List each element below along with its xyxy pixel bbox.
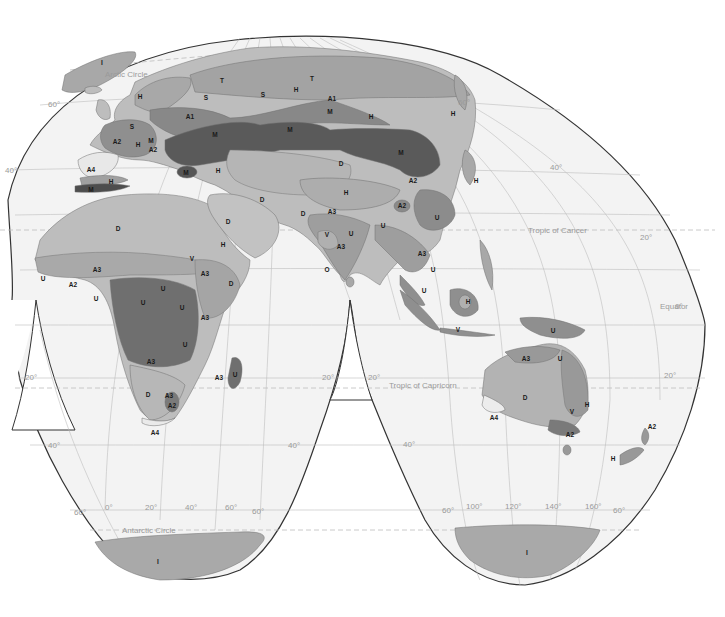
region-label: U <box>94 295 99 302</box>
sri-lanka <box>346 277 354 287</box>
lat-label: 40° <box>5 166 17 175</box>
region-label: H <box>221 241 226 248</box>
region-label: D <box>301 210 306 217</box>
lat-label: 60° <box>458 98 470 107</box>
region-label: D <box>260 196 265 203</box>
region-label: U <box>435 214 440 221</box>
region-label: H <box>294 86 299 93</box>
arctic-circle-label: Arctic Circle <box>105 70 148 79</box>
region-label: U <box>381 222 386 229</box>
region-label: M <box>212 131 217 138</box>
lon-label: 100° <box>466 502 483 511</box>
region-label: A3 <box>201 314 210 321</box>
region-label: M <box>148 137 153 144</box>
region-label: T <box>310 75 314 82</box>
region-label: A1 <box>186 113 195 120</box>
region-label: H <box>451 110 456 117</box>
region-label: U <box>180 304 185 311</box>
region-label: H <box>369 113 374 120</box>
region-label: A2 <box>69 281 78 288</box>
lon-label: 40° <box>185 503 197 512</box>
region-label: A3 <box>201 270 210 277</box>
region-label: A3 <box>328 208 337 215</box>
tasmania <box>563 445 571 455</box>
region-label: V <box>456 326 461 333</box>
world-map: Arctic Circle Tropic of Cancer Equator T… <box>0 0 725 617</box>
region-label: U <box>422 287 427 294</box>
region-label: I <box>526 549 528 556</box>
region-label: H <box>466 298 471 305</box>
antarctica-left <box>95 532 264 580</box>
region-label: A3 <box>215 374 224 381</box>
region-label: A2 <box>566 431 575 438</box>
region-label: A2 <box>648 423 657 430</box>
region-label: H <box>138 93 143 100</box>
lat-label: 60° <box>48 100 60 109</box>
lat-label: 0° <box>675 302 683 311</box>
lat-label: 60° <box>613 506 625 515</box>
region-label: A1 <box>328 95 337 102</box>
region-label: U <box>431 266 436 273</box>
lat-label: 40° <box>550 163 562 172</box>
lat-label: 40° <box>48 441 60 450</box>
region-label: M <box>398 149 403 156</box>
region-label: I <box>101 59 103 66</box>
lat-label: 20° <box>25 373 37 382</box>
region-label: D <box>146 391 151 398</box>
region-label: T <box>220 77 224 84</box>
tropic-of-cancer-label: Tropic of Cancer <box>528 226 587 235</box>
region-label: U <box>551 327 556 334</box>
region-label: U <box>183 341 188 348</box>
region-label: M <box>88 186 93 193</box>
region-label: U <box>349 230 354 237</box>
region-label: M <box>183 169 188 176</box>
region-label: A2 <box>113 138 122 145</box>
lon-label: 20° <box>145 503 157 512</box>
region-label: S <box>261 91 266 98</box>
region-label: A2 <box>398 202 407 209</box>
region-label: M <box>327 108 332 115</box>
lat-label: 20° <box>368 373 380 382</box>
lat-label: 20° <box>664 371 676 380</box>
region-label: H <box>109 178 114 185</box>
lon-label: 160° <box>585 502 602 511</box>
region-label: A3 <box>522 355 531 362</box>
lat-label: 20° <box>640 233 652 242</box>
region-label: U <box>233 371 238 378</box>
region-label: H <box>611 455 616 462</box>
region-label: A4 <box>151 429 160 436</box>
lat-label: 20° <box>322 373 334 382</box>
region-label: A3 <box>93 266 102 273</box>
region-label: H <box>216 167 221 174</box>
lat-label: 60° <box>442 506 454 515</box>
region-label: H <box>136 141 141 148</box>
antarctic-circle-label: Antarctic Circle <box>122 526 176 535</box>
region-label: A2 <box>409 177 418 184</box>
lon-label: 120° <box>505 502 522 511</box>
lon-label: 0° <box>105 503 113 512</box>
region-label: A2 <box>168 402 177 409</box>
region-label: H <box>474 177 479 184</box>
region-label: V <box>570 408 575 415</box>
lat-label: 40° <box>403 440 415 449</box>
region-label: M <box>287 126 292 133</box>
lat-label: 60° <box>74 508 86 517</box>
region-label: H <box>585 401 590 408</box>
region-label: V <box>190 255 195 262</box>
lon-label: 60° <box>225 503 237 512</box>
region-label: U <box>161 285 166 292</box>
region-label: U <box>41 275 46 282</box>
region-label: A3 <box>147 358 156 365</box>
region-label: A4 <box>490 414 499 421</box>
region-label: S <box>130 123 135 130</box>
lon-label: 140° <box>545 502 562 511</box>
region-label: A3 <box>418 250 427 257</box>
region-label: D <box>116 225 121 232</box>
region-label: A3 <box>165 392 174 399</box>
region-label: I <box>157 558 159 565</box>
region-label: U <box>141 299 146 306</box>
tropic-of-capricorn-label: Tropic of Capricorn <box>389 381 457 390</box>
region-label: O <box>324 266 329 273</box>
region-label: V <box>325 231 330 238</box>
region-label: A4 <box>87 166 96 173</box>
